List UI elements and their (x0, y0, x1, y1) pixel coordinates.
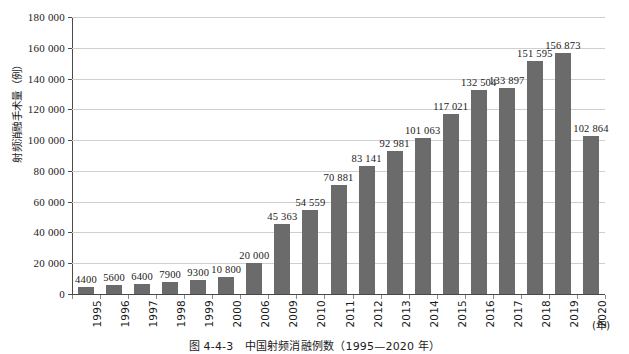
x-axis-tick-mark (240, 295, 241, 299)
bar: 20 000 (246, 263, 262, 294)
y-axis-tick-label: 120 000 (28, 103, 65, 115)
x-axis-tick-label: 1999 (203, 300, 215, 328)
x-axis-tick-mark (549, 295, 550, 299)
bar: 54 559 (302, 210, 318, 294)
y-axis-tick-label: 20 000 (34, 257, 65, 269)
y-axis-tick-mark (68, 232, 72, 233)
bar: 102 864 (583, 136, 599, 294)
x-axis-tick-label: 2018 (540, 300, 552, 328)
x-axis-tick-label: 2020 (596, 300, 608, 328)
y-axis-title: 射频消融手术量（例） (11, 11, 23, 211)
x-axis-tick-label: 2011 (344, 300, 356, 328)
gridline (72, 109, 605, 110)
x-axis-tick-label: 2006 (259, 300, 271, 328)
x-axis-tick-label: 1998 (175, 300, 187, 328)
bar-value-label: 4400 (75, 274, 97, 285)
bar: 70 881 (331, 185, 347, 294)
x-axis-tick-mark (212, 295, 213, 299)
bar-value-label: 7900 (159, 269, 181, 280)
x-axis-tick-label: 2019 (568, 300, 580, 328)
bar-value-label: 10 800 (211, 264, 241, 275)
x-axis-tick-label: 1995 (91, 300, 103, 328)
bar-value-label: 101 063 (405, 125, 441, 136)
bar-value-label: 9300 (187, 267, 209, 278)
y-axis-tick-mark (68, 109, 72, 110)
bar-value-label: 102 864 (573, 123, 609, 134)
bar-value-label: 45 363 (267, 211, 297, 222)
bar: 10 800 (218, 277, 234, 294)
y-axis-tick-label: 160 000 (28, 42, 65, 54)
x-axis-tick-label: 2010 (315, 300, 327, 328)
bar: 156 873 (555, 53, 571, 294)
figure-caption: 图 4-4-3 中国射频消融例数（1995—2020 年） (0, 337, 629, 353)
bar: 45 363 (274, 224, 290, 294)
x-axis-tick-mark (437, 295, 438, 299)
x-axis-tick-mark (268, 295, 269, 299)
x-axis-tick-label: 2014 (428, 300, 440, 328)
bar: 117 021 (443, 114, 459, 294)
y-axis-tick-label: 40 000 (34, 226, 65, 238)
gridline (72, 17, 605, 18)
bar-value-label: 92 981 (380, 138, 410, 149)
x-axis-tick-mark (72, 295, 73, 299)
y-axis-tick-mark (68, 17, 72, 18)
x-axis-tick-mark (381, 295, 382, 299)
x-axis-tick-label: 1997 (147, 300, 159, 328)
bar: 92 981 (387, 151, 403, 294)
y-axis-tick-label: 140 000 (28, 73, 65, 85)
x-axis-tick-label: 2013 (400, 300, 412, 328)
bar-value-label: 70 881 (323, 172, 353, 183)
x-axis-tick-mark (296, 295, 297, 299)
y-axis-tick-mark (68, 171, 72, 172)
bar-value-label: 6400 (131, 271, 153, 282)
bar: 9300 (190, 280, 206, 294)
y-axis-tick-mark (68, 48, 72, 49)
bar-value-label: 117 021 (433, 101, 468, 112)
x-axis-tick-mark (605, 295, 606, 299)
y-axis-tick-label: 180 000 (28, 11, 65, 23)
bar: 151 595 (527, 61, 543, 294)
x-axis-tick-mark (353, 295, 354, 299)
bar-value-label: 20 000 (239, 250, 269, 261)
bar-value-label: 83 141 (352, 153, 382, 164)
x-axis-tick-label: 2015 (456, 300, 468, 328)
bar: 101 063 (415, 138, 431, 294)
x-axis-tick-label: 2012 (372, 300, 384, 328)
y-axis-tick-label: 0 (59, 288, 65, 300)
x-axis-tick-mark (128, 295, 129, 299)
x-axis-tick-mark (324, 295, 325, 299)
bar: 7900 (162, 282, 178, 294)
bar-value-label: 133 897 (489, 75, 525, 86)
figure-container: 射频消融手术量（例） 020 00040 00060 00080 000100 … (0, 0, 629, 354)
x-axis-tick-label: 2000 (231, 300, 243, 328)
x-axis-line (72, 294, 605, 295)
y-axis-tick-label: 80 000 (34, 165, 65, 177)
y-axis-tick-mark (68, 202, 72, 203)
x-axis-tick-mark (493, 295, 494, 299)
plot-area: 020 00040 00060 00080 000100 000120 0001… (72, 17, 605, 295)
x-axis-tick-mark (465, 295, 466, 299)
bar-value-label: 156 873 (545, 40, 581, 51)
x-axis-tick-label: 2016 (484, 300, 496, 328)
x-axis-tick-mark (156, 295, 157, 299)
x-axis-tick-label: 2009 (287, 300, 299, 328)
y-axis-tick-mark (68, 140, 72, 141)
gridline (72, 140, 605, 141)
bar-value-label: 5600 (103, 272, 125, 283)
x-axis-tick-label: 1996 (119, 300, 131, 328)
y-axis-line (72, 17, 73, 295)
x-axis-tick-mark (577, 295, 578, 299)
bar: 4400 (78, 287, 94, 294)
bar: 132 504 (471, 90, 487, 294)
bar-value-label: 54 559 (295, 197, 325, 208)
y-axis-tick-mark (68, 79, 72, 80)
y-axis-tick-mark (68, 263, 72, 264)
x-axis-tick-mark (100, 295, 101, 299)
y-axis-tick-label: 100 000 (28, 134, 65, 146)
y-axis-tick-label: 60 000 (34, 196, 65, 208)
gridline (72, 79, 605, 80)
bar: 5600 (106, 285, 122, 294)
x-axis-tick-mark (184, 295, 185, 299)
bar: 133 897 (499, 88, 515, 294)
x-axis-tick-mark (409, 295, 410, 299)
